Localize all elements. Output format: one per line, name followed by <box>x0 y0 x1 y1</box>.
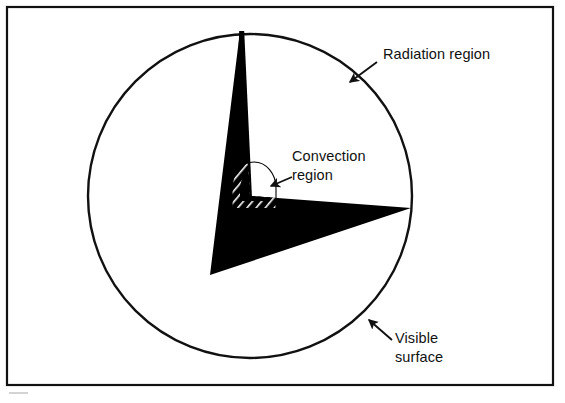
solar-cutaway-diagram: Radiation region Convection region Visib… <box>0 0 565 403</box>
visible-surface-label-line2: surface <box>395 349 443 365</box>
convection-region-label-line1: Convection <box>292 148 366 164</box>
figure-root: Radiation region Convection region Visib… <box>0 0 565 403</box>
radiation-region-label: Radiation region <box>383 46 490 62</box>
visible-surface-label-line1: Visible <box>395 330 438 346</box>
convection-region-label-line2: region <box>292 167 333 183</box>
